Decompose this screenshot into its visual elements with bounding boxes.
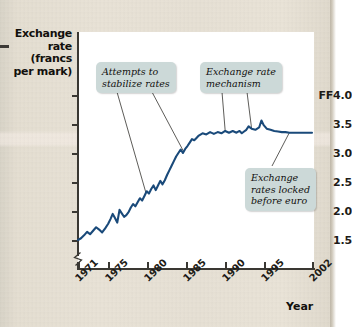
chart-overlay	[0, 0, 352, 327]
leader-line-attempts-right	[152, 92, 184, 152]
leader-line-erm-left	[222, 92, 225, 131]
annotation-exchange-rates-locked-before-euro: Exchange rates locked before euro	[245, 168, 316, 211]
figure-container: Exchange rate (francs per mark) FF4.0 3.…	[0, 0, 352, 327]
annotation-attempts-to-stabilize-rates: Attempts to stabilize rates	[96, 62, 176, 93]
annotation-exchange-rate-mechanism: Exchange rate mechanism	[200, 62, 282, 93]
leader-line-locked	[272, 133, 289, 166]
leader-line-attempts-left	[117, 92, 146, 193]
leader-line-erm-right	[247, 92, 252, 129]
